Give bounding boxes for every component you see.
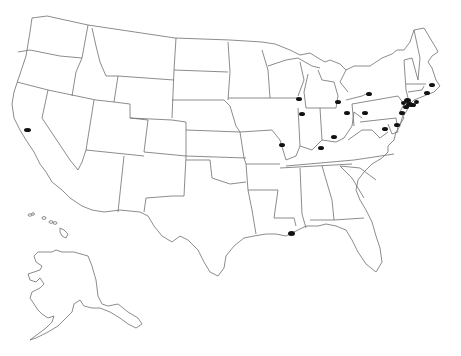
location-marker-new-york-ny-3[interactable]	[403, 105, 409, 109]
us-outline	[12, 16, 440, 276]
map-canvas	[0, 0, 461, 356]
location-marker-boston-ma[interactable]	[429, 83, 435, 87]
location-marker-louisville-ky[interactable]	[318, 146, 324, 150]
location-marker-philadelphia-pa[interactable]	[399, 111, 405, 115]
location-marker-cleveland-oh[interactable]	[344, 111, 350, 115]
location-marker-new-orleans-la[interactable]	[288, 231, 295, 236]
location-marker-jersey-city-nj[interactable]	[401, 101, 406, 105]
location-marker-washington-dc[interactable]	[382, 127, 388, 131]
hawaii-islands	[28, 213, 68, 238]
location-marker-cincinnati-oh[interactable]	[331, 135, 337, 139]
location-marker-hartford-ct[interactable]	[414, 100, 419, 104]
contiguous-us	[12, 16, 440, 276]
location-marker-san-francisco-ca[interactable]	[24, 128, 31, 132]
location-marker-pittsburgh-pa[interactable]	[362, 111, 368, 115]
location-marker-detroit-mi[interactable]	[335, 100, 341, 104]
location-marker-chicago-il[interactable]	[299, 112, 305, 116]
location-marker-baltimore-md[interactable]	[394, 123, 400, 127]
location-marker-milwaukee-wi[interactable]	[296, 97, 302, 101]
location-marker-buffalo-ny[interactable]	[366, 92, 372, 96]
location-marker-st-louis-mo[interactable]	[279, 143, 285, 147]
us-map	[0, 0, 461, 356]
alaska-outline	[28, 250, 142, 340]
location-marker-providence-ri[interactable]	[424, 91, 430, 95]
